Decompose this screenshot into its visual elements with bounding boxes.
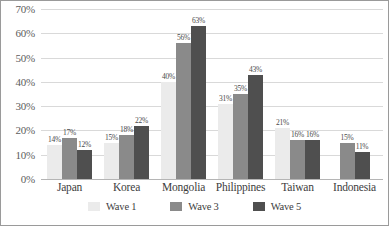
bar-value-label: 18%: [120, 125, 133, 134]
bar[interactable]: 12%: [77, 150, 92, 179]
bar[interactable]: 56%: [176, 43, 191, 179]
y-axis-tick-label: 50%: [15, 52, 35, 64]
bar[interactable]: 21%: [275, 128, 290, 179]
bar-value-label: 40%: [162, 72, 175, 81]
bar-group: 15%11%: [326, 9, 383, 179]
plot-area: 14%17%12%15%18%22%40%56%63%31%35%43%21%1…: [41, 9, 383, 179]
bar-value-label: 15%: [105, 133, 118, 142]
legend-label: Wave 1: [106, 201, 136, 212]
y-axis-tick-label: 10%: [15, 149, 35, 161]
bar[interactable]: 15%: [104, 143, 119, 179]
bar[interactable]: 15%: [340, 143, 355, 179]
bar-group-bars: 15%11%: [340, 9, 370, 179]
bar-value-label: 12%: [78, 140, 91, 149]
bar-value-label: 16%: [306, 130, 319, 139]
bar-group-bars: 15%18%22%: [104, 9, 149, 179]
chart-legend: Wave 1Wave 3Wave 5: [1, 201, 388, 212]
legend-swatch-icon: [253, 202, 265, 211]
bar-value-label: 14%: [48, 135, 61, 144]
category-label: Japan: [41, 181, 98, 199]
bar-value-label: 22%: [135, 116, 148, 125]
bar-value-label: 17%: [63, 128, 76, 137]
bar[interactable]: 22%: [134, 126, 149, 179]
bar-groups: 14%17%12%15%18%22%40%56%63%31%35%43%21%1…: [41, 9, 383, 179]
bar-value-label: 31%: [219, 94, 232, 103]
bar[interactable]: 11%: [355, 152, 370, 179]
y-axis-tick-label: 20%: [15, 124, 35, 136]
legend-item[interactable]: Wave 5: [253, 201, 301, 212]
bar[interactable]: 63%: [191, 26, 206, 179]
x-axis-line: [41, 179, 383, 180]
bar-value-label: 11%: [356, 142, 369, 151]
legend-label: Wave 3: [188, 201, 218, 212]
bar-group: 15%18%22%: [98, 9, 155, 179]
bar-group: 40%56%63%: [155, 9, 212, 179]
bar[interactable]: 35%: [233, 94, 248, 179]
bar[interactable]: 17%: [62, 138, 77, 179]
category-label: Mongolia: [155, 181, 212, 199]
bar-value-label: 56%: [177, 33, 190, 42]
y-axis-tick-label: 70%: [15, 3, 35, 15]
bar-group: 31%35%43%: [212, 9, 269, 179]
bar-value-label: 21%: [276, 118, 289, 127]
bar-value-label: 43%: [249, 65, 262, 74]
bar-value-label: 15%: [341, 133, 354, 142]
bar-group: 14%17%12%: [41, 9, 98, 179]
legend-swatch-icon: [88, 202, 100, 211]
legend-item[interactable]: Wave 3: [170, 201, 218, 212]
category-axis-labels: JapanKoreaMongoliaPhilippinesTaiwanIndon…: [41, 181, 383, 199]
category-label: Indonesia: [326, 181, 383, 199]
bar[interactable]: 14%: [47, 145, 62, 179]
bar[interactable]: 16%: [290, 140, 305, 179]
y-axis-tick-label: 40%: [15, 76, 35, 88]
y-axis: 0%10%20%30%40%50%60%70%: [1, 9, 39, 179]
y-axis-tick-label: 0%: [21, 173, 35, 185]
chart-container: 0%10%20%30%40%50%60%70% 14%17%12%15%18%2…: [0, 0, 389, 226]
bar[interactable]: 16%: [305, 140, 320, 179]
bar-group-bars: 31%35%43%: [218, 9, 263, 179]
bar-value-label: 35%: [234, 84, 247, 93]
y-axis-tick-label: 60%: [15, 27, 35, 39]
y-axis-tick-label: 30%: [15, 100, 35, 112]
bar-group-bars: 14%17%12%: [47, 9, 92, 179]
bar[interactable]: 18%: [119, 135, 134, 179]
bar-value-label: 63%: [192, 16, 205, 25]
category-label: Korea: [98, 181, 155, 199]
legend-label: Wave 5: [271, 201, 301, 212]
legend-swatch-icon: [170, 202, 182, 211]
bar-group-bars: 21%16%16%: [275, 9, 320, 179]
legend-item[interactable]: Wave 1: [88, 201, 136, 212]
category-label: Philippines: [212, 181, 269, 199]
bar-group: 21%16%16%: [269, 9, 326, 179]
bar[interactable]: 31%: [218, 104, 233, 179]
bar-group-bars: 40%56%63%: [161, 9, 206, 179]
bar[interactable]: 40%: [161, 82, 176, 179]
bar-value-label: 16%: [291, 130, 304, 139]
bar[interactable]: 43%: [248, 75, 263, 179]
category-label: Taiwan: [269, 181, 326, 199]
